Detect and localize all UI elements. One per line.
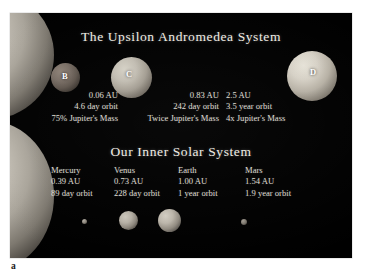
mars-name: Mars [245,165,291,176]
planet-c-mass: Twice Jupiter's Mass [122,113,219,124]
planet-c-distance: 0.83 AU [122,90,219,101]
mars-sphere [241,219,247,225]
planet-d-distance: 2.5 AU [226,90,326,101]
planet-b-data: 0.06 AU 4.6 day orbit 75% Jupiter's Mass [32,90,118,124]
planet-c-data: 0.83 AU 242 day orbit Twice Jupiter's Ma… [122,90,219,124]
mars-distance: 1.54 AU [245,176,291,187]
mercury-data: Mercury 0.39 AU 89 day orbit [51,165,93,199]
solar-system-title: Our Inner Solar System [10,144,352,160]
planet-b-label: B [62,71,68,81]
figure-caption-label: a [11,261,16,271]
planet-d-data: 2.5 AU 3.5 year orbit 4x Jupiter's Mass [226,90,326,124]
earth-data: Earth 1.00 AU 1 year orbit [178,165,218,199]
venus-orbit: 228 day orbit [114,188,160,199]
mercury-sphere [82,219,87,224]
earth-name: Earth [178,165,218,176]
venus-sphere [119,211,138,230]
venus-data: Venus 0.73 AU 228 day orbit [114,165,160,199]
figure-container: The Upsilon Andromedea System B C D 0.06… [0,0,365,277]
earth-distance: 1.00 AU [178,176,218,187]
planet-c-orbit: 242 day orbit [122,101,219,112]
venus-name: Venus [114,165,160,176]
planet-b-mass: 75% Jupiter's Mass [32,113,118,124]
astronomy-diagram-panel: The Upsilon Andromedea System B C D 0.06… [10,13,352,258]
planet-d-orbit: 3.5 year orbit [226,101,326,112]
earth-orbit: 1 year orbit [178,188,218,199]
venus-distance: 0.73 AU [114,176,160,187]
sun-sphere [10,121,54,258]
planet-b-orbit: 4.6 day orbit [32,101,118,112]
planet-b-distance: 0.06 AU [32,90,118,101]
planet-c-label: C [126,69,132,79]
mercury-distance: 0.39 AU [51,176,93,187]
mars-orbit: 1.9 year orbit [245,188,291,199]
mercury-name: Mercury [51,165,93,176]
planet-d-mass: 4x Jupiter's Mass [226,113,326,124]
mars-data: Mars 1.54 AU 1.9 year orbit [245,165,291,199]
mercury-orbit: 89 day orbit [51,188,93,199]
earth-sphere [158,209,181,232]
planet-d-label: D [310,67,316,77]
exo-system-title: The Upsilon Andromedea System [10,29,352,45]
